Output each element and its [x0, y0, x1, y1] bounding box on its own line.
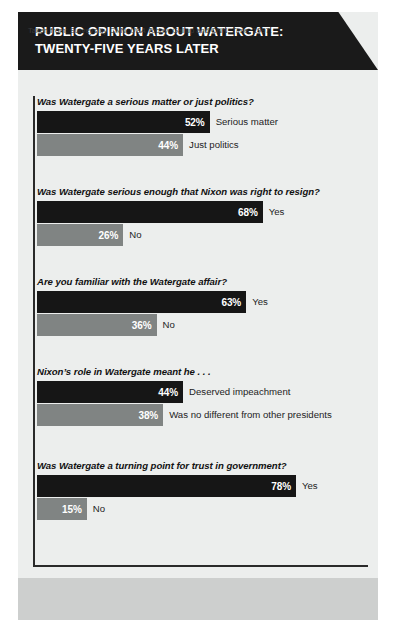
infographic-panel: PUBLIC OPINION ABOUT WATERGATE: TWENTY-F…	[18, 12, 378, 620]
bar-value-label: 68%	[238, 207, 263, 218]
bar: 52%	[37, 111, 210, 133]
bar-row: 26%No	[37, 224, 377, 246]
bar-value-label: 38%	[138, 410, 163, 421]
question-label: Nixon’s role in Watergate meant he . . .	[37, 366, 377, 377]
bar-value-label: 44%	[158, 140, 183, 151]
bar-row: 52%Serious matter	[37, 111, 377, 133]
bar-row: 44%Just politics	[37, 134, 377, 156]
bar-row: 44%Deserved impeachment	[37, 381, 377, 403]
bar-row: 63%Yes	[37, 291, 377, 313]
bar-value-label: 26%	[99, 230, 124, 241]
bar-category-label: Serious matter	[210, 111, 278, 133]
bar-row: 15%No	[37, 498, 377, 520]
bar: 63%	[37, 291, 246, 313]
source-publication-time: Time	[232, 26, 249, 35]
bar-value-label: 36%	[132, 320, 157, 331]
bar-row: 78%Yes	[37, 475, 377, 497]
axis-baseline-rule	[33, 565, 368, 567]
bar: 36%	[37, 314, 157, 336]
chart-area: Was Watergate a serious matter or just p…	[18, 70, 378, 568]
bar-category-label: No	[87, 498, 105, 520]
footer-band	[18, 578, 378, 620]
bar: 44%	[37, 134, 183, 156]
bar-category-label: Just politics	[183, 134, 239, 156]
source-note: Taken from: Surveys by CNN, USA Today, G…	[28, 26, 272, 35]
bar-value-label: 15%	[62, 504, 87, 515]
bar-category-label: No	[157, 314, 175, 336]
bar-category-label: Was no different from other presidents	[163, 404, 332, 426]
bar-category-label: Deserved impeachment	[183, 381, 290, 403]
bar-category-label: Yes	[263, 201, 285, 223]
bar-category-label: Yes	[246, 291, 268, 313]
source-publication-usa-today: USA Today	[130, 26, 168, 35]
question-label: Was Watergate a serious matter or just p…	[37, 96, 377, 107]
bar: 15%	[37, 498, 87, 520]
question-label: Was Watergate a turning point for trust …	[37, 460, 377, 471]
bar: 68%	[37, 201, 263, 223]
bar-value-label: 44%	[158, 387, 183, 398]
bar-value-label: 63%	[221, 297, 246, 308]
bar-value-label: 78%	[271, 481, 296, 492]
question-label: Are you familiar with the Watergate affa…	[37, 276, 377, 287]
question-group: Are you familiar with the Watergate affa…	[37, 276, 377, 337]
question-group: Was Watergate serious enough that Nixon …	[37, 186, 377, 247]
axis-vertical-rule	[33, 96, 35, 566]
question-group: Nixon’s role in Watergate meant he . . .…	[37, 366, 377, 427]
bar-category-label: No	[123, 224, 141, 246]
bar: 44%	[37, 381, 183, 403]
question-group: Was Watergate a turning point for trust …	[37, 460, 377, 521]
bar-value-label: 52%	[185, 117, 210, 128]
bar-row: 38%Was no different from other president…	[37, 404, 377, 426]
bar: 26%	[37, 224, 123, 246]
question-group: Was Watergate a serious matter or just p…	[37, 96, 377, 157]
bar-category-label: Yes	[296, 475, 318, 497]
question-label: Was Watergate serious enough that Nixon …	[37, 186, 377, 197]
bar: 38%	[37, 404, 163, 426]
bar-row: 36%No	[37, 314, 377, 336]
bar-row: 68%Yes	[37, 201, 377, 223]
bar: 78%	[37, 475, 296, 497]
